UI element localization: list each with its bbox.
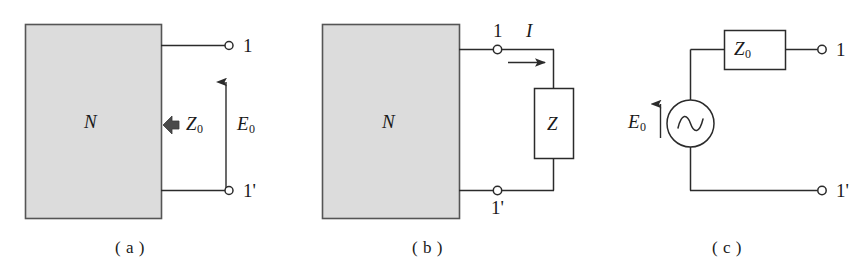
terminal-node-1prime-b <box>493 186 501 194</box>
caption-a: ( a ) <box>115 239 145 256</box>
terminal-label-1prime-a: 1' <box>243 181 256 200</box>
caption-c: ( c ) <box>712 239 742 256</box>
impedance-label-c-base: Z <box>734 38 745 59</box>
terminal-label-1-a: 1 <box>243 36 253 55</box>
terminal-label-1-b: 1 <box>493 21 503 40</box>
emf-label-a-sub: 0 <box>249 122 256 136</box>
terminal-node-1prime-c <box>818 186 826 194</box>
network-label-b: N <box>382 112 395 131</box>
network-label-a: N <box>84 112 97 131</box>
terminal-label-1prime-b: 1' <box>491 198 504 217</box>
caption-b: ( b ) <box>412 239 443 256</box>
impedance-label-c: Z0 <box>734 39 751 60</box>
load-label-b: Z <box>547 114 558 133</box>
terminal-node-1-a <box>225 42 233 50</box>
emf-label-a: E0 <box>237 114 255 135</box>
impedance-label-a-sub: 0 <box>197 122 204 136</box>
terminal-label-1prime-c: 1' <box>836 181 849 200</box>
source-label-c: E0 <box>628 112 646 133</box>
source-label-c-sub: 0 <box>640 120 647 134</box>
current-label-b: I <box>526 21 532 40</box>
terminal-node-1-b <box>493 45 501 53</box>
impedance-label-c-sub: 0 <box>745 47 752 61</box>
impedance-label-a-base: Z <box>186 113 197 134</box>
impedance-arrow-a <box>163 116 179 134</box>
emf-label-a-base: E <box>237 113 249 134</box>
terminal-label-1-c: 1 <box>836 40 846 59</box>
terminal-node-1-c <box>818 45 826 53</box>
impedance-label-a: Z0 <box>186 114 203 135</box>
figure-root: N Z0 E0 1 1' ( a ) N Z 1 I 1' ( b ) Z0 E… <box>0 0 866 272</box>
source-label-c-base: E <box>628 111 640 132</box>
panel-b-graphics <box>323 25 574 219</box>
